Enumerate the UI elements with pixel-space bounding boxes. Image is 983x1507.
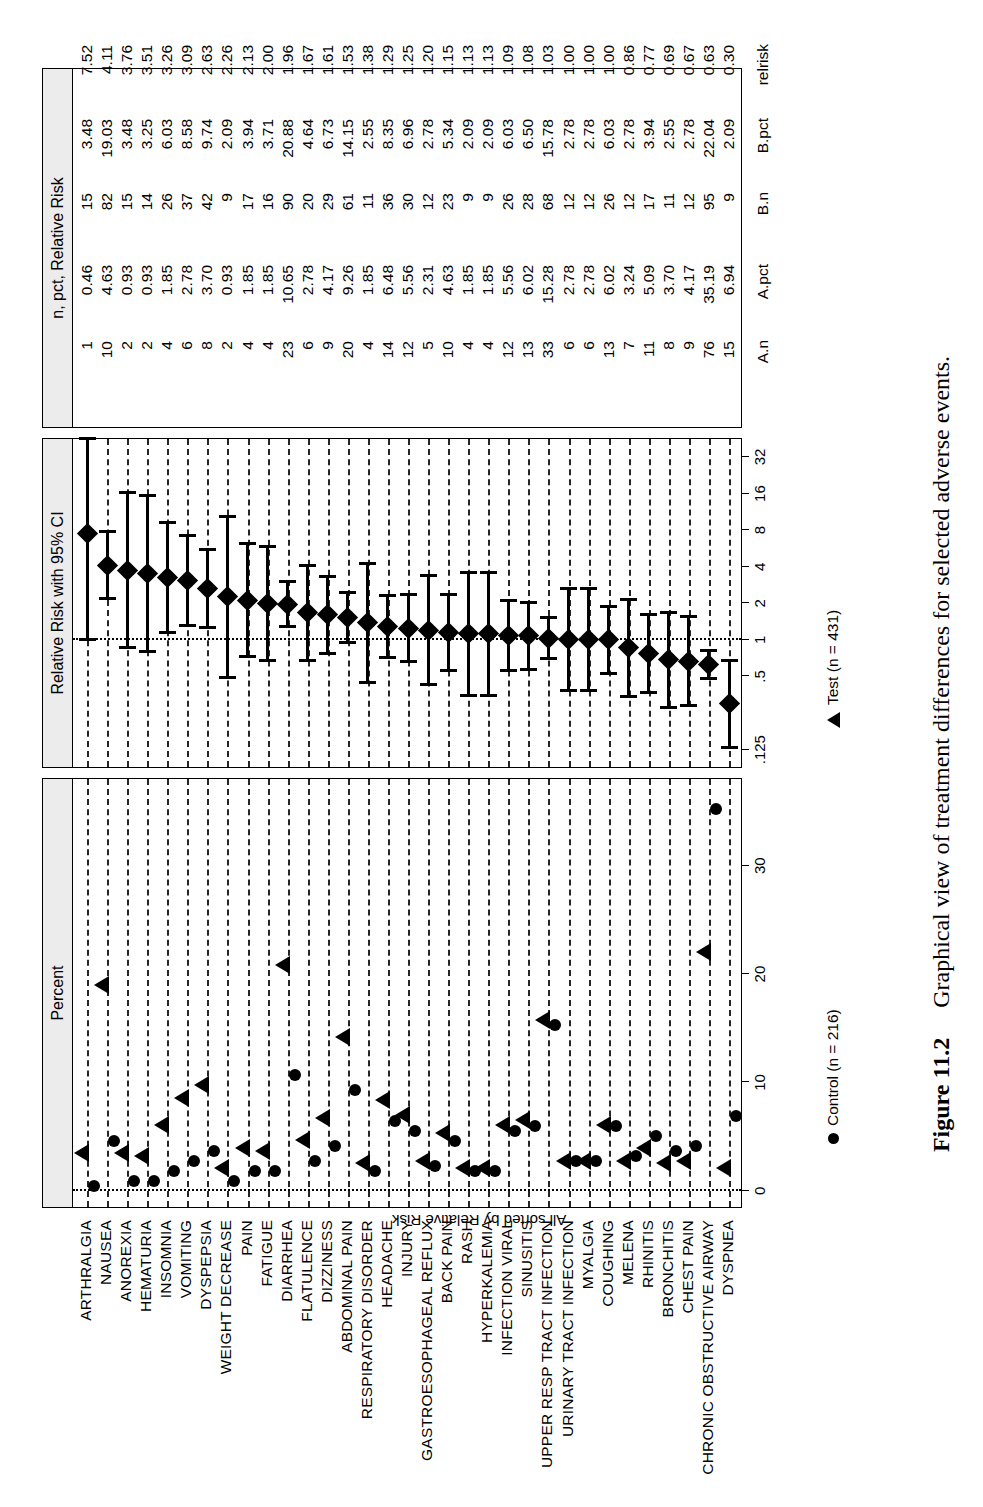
grid-line <box>648 439 650 767</box>
table-cell: 5.56 <box>497 265 519 295</box>
triangle-marker-icon <box>374 1091 389 1109</box>
table-cell: 13 <box>517 341 539 358</box>
relative-risk-point-estimate <box>698 653 719 674</box>
table-cell: 9.74 <box>196 119 218 149</box>
confidence-interval-cap <box>720 658 737 661</box>
table-cell: 6 <box>176 341 198 350</box>
confidence-interval-cap <box>359 680 376 683</box>
table-cell: 6.03 <box>597 119 619 149</box>
table-cell: 3.48 <box>116 119 138 149</box>
triangle-marker-icon <box>655 1154 670 1172</box>
circle-marker-icon <box>308 1154 320 1166</box>
table-cell: 1.85 <box>457 265 479 295</box>
confidence-interval-cap <box>359 561 376 564</box>
table-cell: 12 <box>617 193 639 210</box>
table-cell: 1 <box>76 341 98 350</box>
relative-risk-point-estimate <box>537 627 558 648</box>
legend-control-label: Control (n = 216) <box>824 1009 841 1126</box>
table-cell: 37 <box>176 193 198 210</box>
table-cell: 0.93 <box>136 265 158 295</box>
confidence-interval-cap <box>620 695 637 698</box>
table-cell: 22.04 <box>697 119 719 158</box>
circle-marker-icon <box>589 1154 601 1166</box>
table-cell: 10.65 <box>276 265 298 304</box>
event-label: HEADACHE <box>375 1220 397 1308</box>
triangle-marker-icon <box>294 1131 309 1149</box>
table-cell: 9 <box>718 193 740 202</box>
axis-tick <box>742 565 749 566</box>
confidence-interval-cap <box>640 690 657 693</box>
grid-line <box>628 779 630 1207</box>
grid-line <box>387 779 389 1207</box>
axis-tick-label: 16 <box>751 485 768 502</box>
table-cell: 26 <box>597 193 619 210</box>
grid-line <box>468 779 470 1207</box>
grid-line <box>187 779 189 1207</box>
table-column-header: relrisk <box>752 44 774 85</box>
event-label: GASTROESOPHAGEAL REFLUX <box>416 1220 438 1461</box>
table-cell: 29 <box>316 193 338 210</box>
relative-risk-point-estimate <box>297 602 318 623</box>
percent-panel-title: Percent <box>43 779 72 1207</box>
table-cell: 11 <box>657 193 679 209</box>
confidence-interval-cap <box>319 651 336 654</box>
grid-line <box>568 779 570 1207</box>
grid-line <box>287 779 289 1207</box>
confidence-interval-cap <box>218 676 235 679</box>
table-cell: 6 <box>557 341 579 350</box>
table-cell: 11 <box>637 341 659 357</box>
forest-plot-area <box>73 439 741 767</box>
confidence-interval-cap <box>459 570 476 573</box>
confidence-interval-cap <box>700 677 717 680</box>
table-cell: 1.85 <box>236 265 258 295</box>
event-label: PAIN <box>235 1220 257 1256</box>
relative-risk-panel-title: Relative Risk with 95% CI <box>43 439 72 767</box>
confidence-interval-cap <box>259 544 276 547</box>
table-cell: 2 <box>216 341 238 350</box>
relative-risk-point-estimate <box>176 569 197 590</box>
event-label: DYSPNEA <box>717 1220 739 1295</box>
relative-risk-point-estimate <box>457 622 478 643</box>
relative-risk-panel-strip: Relative Risk with 95% CI <box>43 439 73 767</box>
grid-line <box>207 779 209 1207</box>
relative-risk-point-estimate <box>598 629 619 650</box>
circle-marker-icon <box>828 1133 839 1144</box>
circle-marker-icon <box>288 1069 300 1081</box>
triangle-marker-icon <box>134 1146 149 1164</box>
event-label: HYPERKALEMIA <box>476 1220 498 1343</box>
confidence-interval-cap <box>158 631 175 634</box>
triangle-marker-icon <box>595 1116 610 1134</box>
table-cell: 20 <box>336 341 358 358</box>
circle-marker-icon <box>368 1164 380 1176</box>
axis-tick <box>742 638 749 639</box>
grid-line <box>87 779 89 1207</box>
event-label: NAUSEA <box>95 1220 117 1285</box>
event-label: RHINITIS <box>636 1220 658 1288</box>
table-cell: 0.67 <box>677 45 699 75</box>
confidence-interval-cap <box>600 604 617 607</box>
axis-tick <box>742 1189 749 1190</box>
table-cell: 0.77 <box>637 45 659 75</box>
table-cell: 3.70 <box>657 265 679 295</box>
event-label: VOMITING <box>175 1220 197 1298</box>
table-cell: 1.85 <box>356 265 378 295</box>
event-label: MYALGIA <box>576 1220 598 1289</box>
table-cell: 1.00 <box>557 45 579 75</box>
triangle-marker-icon <box>314 1108 329 1126</box>
circle-marker-icon <box>429 1159 441 1171</box>
grid-line <box>127 779 129 1207</box>
table-cell: 36 <box>376 193 398 210</box>
event-label: BACK PAIN <box>436 1220 458 1303</box>
circle-marker-icon <box>409 1124 421 1136</box>
confidence-interval-cap <box>459 693 476 696</box>
table-cell: 6.03 <box>156 119 178 149</box>
table-cell: 0.69 <box>657 45 679 75</box>
confidence-interval-cap <box>660 610 677 613</box>
table-cell: 2.55 <box>356 119 378 149</box>
confidence-interval-cap <box>178 623 195 626</box>
table-cell: 90 <box>276 193 298 210</box>
triangle-marker-icon <box>435 1123 450 1141</box>
triangle-marker-icon <box>415 1151 430 1169</box>
table-cell: 6.50 <box>517 119 539 149</box>
table-cell: 3.25 <box>136 119 158 149</box>
